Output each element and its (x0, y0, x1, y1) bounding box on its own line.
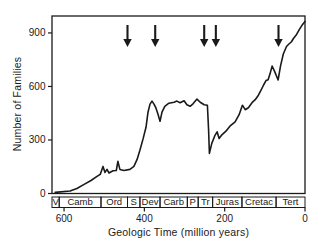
chart-canvas: VCambOrdSDevCarbPTrJurasCretacTert030060… (0, 0, 317, 243)
y-axis-title: Number of Families (11, 57, 23, 152)
y-tick-label: 0 (40, 188, 46, 199)
x-tick-label: 400 (136, 213, 153, 224)
period-band-label: Camb (67, 196, 92, 207)
x-tick-label: 0 (302, 213, 308, 224)
x-tick-label: 200 (216, 213, 233, 224)
period-band-label: Juras (216, 196, 239, 207)
x-tick-label: 600 (56, 213, 73, 224)
extinction-arrow-icon (123, 39, 131, 47)
plot-frame (52, 16, 305, 194)
extinction-arrow-icon (151, 39, 159, 47)
x-axis-title: Geologic Time (million years) (52, 226, 305, 238)
period-band-label: Tr (201, 196, 210, 207)
extinction-arrow-icon (200, 39, 208, 47)
period-band-label: S (131, 196, 137, 207)
y-tick-label: 600 (29, 81, 46, 92)
extinction-arrow-icon (212, 39, 220, 47)
period-band-label: Dev (142, 196, 159, 207)
diversity-chart: VCambOrdSDevCarbPTrJurasCretacTert030060… (0, 0, 317, 243)
period-band-label: P (190, 196, 196, 207)
extinction-arrow-icon (274, 39, 282, 47)
y-tick-label: 300 (29, 134, 46, 145)
period-band-label: Tert (283, 196, 299, 207)
y-tick-label: 900 (29, 27, 46, 38)
period-band-label: Ord (106, 196, 122, 207)
period-band-label: Carb (163, 196, 184, 207)
diversity-curve (55, 21, 305, 192)
period-band-label: Cretac (245, 196, 273, 207)
period-band-label: V (52, 196, 59, 207)
